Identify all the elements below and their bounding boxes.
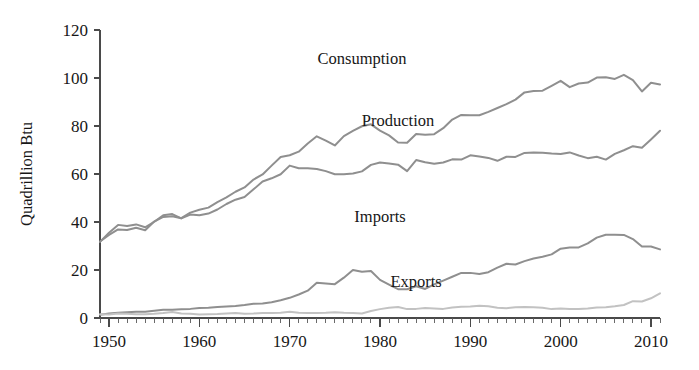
chart-canvas: 020406080100120 195019601970198019902000… xyxy=(0,0,699,370)
x-axis-ticks: 1950196019701980199020002010 xyxy=(92,318,668,351)
x-tick-label: 1960 xyxy=(182,332,216,351)
x-tick-label: 2000 xyxy=(544,332,578,351)
x-tick-label: 2010 xyxy=(634,332,668,351)
series-line-imports xyxy=(100,235,660,315)
series-label-imports: Imports xyxy=(354,207,405,226)
energy-overview-chart: 020406080100120 195019601970198019902000… xyxy=(0,0,699,370)
series-line-exports xyxy=(100,293,660,314)
y-axis-title: Quadrillion Btu xyxy=(17,122,36,226)
y-tick-label: 80 xyxy=(71,117,88,136)
chart-axes xyxy=(100,30,660,318)
x-tick-label: 1950 xyxy=(92,332,126,351)
x-tick-label: 1980 xyxy=(363,332,397,351)
series-label-consumption: Consumption xyxy=(317,49,406,68)
y-tick-label: 120 xyxy=(63,21,89,40)
x-tick-label: 1970 xyxy=(273,332,307,351)
series-label-production: Production xyxy=(362,111,434,130)
y-axis-ticks: 020406080100120 xyxy=(63,21,101,328)
y-tick-label: 40 xyxy=(71,213,88,232)
x-tick-label: 1990 xyxy=(453,332,487,351)
chart-series-labels: ConsumptionProductionImportsExports xyxy=(317,49,441,291)
y-tick-label: 60 xyxy=(71,165,88,184)
y-tick-label: 0 xyxy=(80,309,89,328)
y-tick-label: 20 xyxy=(71,261,88,280)
series-label-exports: Exports xyxy=(390,272,441,291)
y-tick-label: 100 xyxy=(63,69,89,88)
